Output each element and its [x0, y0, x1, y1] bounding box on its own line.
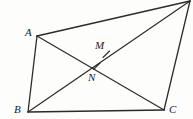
vertex-label-B: B — [14, 104, 21, 115]
edge-BC — [28, 110, 164, 112]
vertex-label-C: C — [169, 104, 176, 115]
equal-length-tick-marks — [94, 51, 110, 70]
edge-DA — [37, 1, 190, 36]
edge-AB — [28, 36, 37, 112]
edge-CD — [164, 1, 190, 110]
vertex-label-A: A — [25, 27, 32, 38]
diagonal-BD — [28, 1, 190, 112]
diagonals — [28, 1, 190, 112]
point-label-M: M — [95, 40, 104, 51]
geometry-figure: A B C M N — [0, 0, 193, 119]
figure-canvas — [0, 0, 193, 119]
point-label-N: N — [88, 72, 95, 83]
